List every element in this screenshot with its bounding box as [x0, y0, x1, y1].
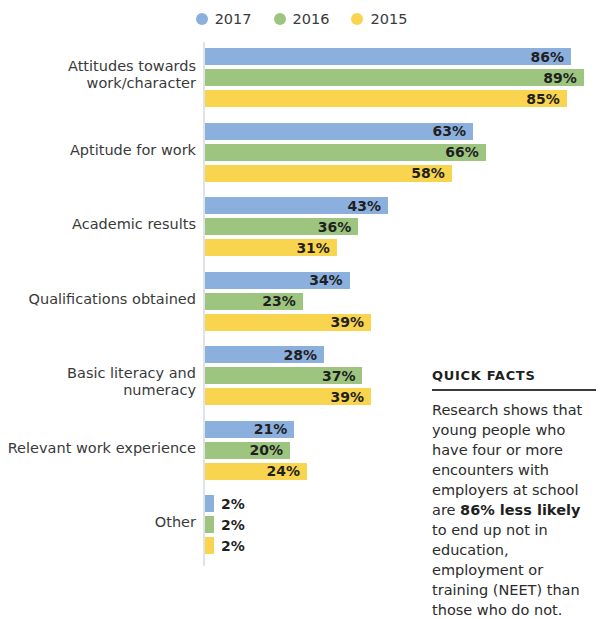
bar-value-label: 24%: [267, 464, 301, 478]
bar-row: 86%: [205, 48, 584, 65]
bar-row: 36%: [205, 218, 388, 235]
bar-value-label: 21%: [254, 422, 288, 436]
legend-dot-icon: [274, 13, 286, 25]
bar-row: 39%: [205, 388, 371, 405]
quick-facts-text-after: to end up not in education, employment o…: [432, 522, 580, 618]
legend-item-2016[interactable]: 2016: [274, 12, 330, 27]
legend-dot-icon: [196, 13, 208, 25]
bar-2017[interactable]: 34%: [205, 272, 350, 289]
category-label: Academic results: [0, 216, 196, 233]
bar-value-label: 36%: [318, 220, 352, 234]
bar-value-label: 37%: [322, 369, 356, 383]
quick-facts-divider: [432, 389, 596, 391]
bar-value-label: 31%: [296, 241, 330, 255]
category-label: Relevant work experience: [0, 440, 196, 457]
bar-2016[interactable]: 36%: [205, 218, 358, 235]
bar-row: 39%: [205, 314, 371, 331]
bar-2017[interactable]: 28%: [205, 346, 324, 363]
bar-2017[interactable]: 86%: [205, 48, 571, 65]
bar-stack: 2%2%2%: [205, 495, 214, 558]
bar-row: 85%: [205, 90, 584, 107]
bar-row: 63%: [205, 123, 486, 140]
bar-row: 34%: [205, 272, 371, 289]
bar-value-label: 43%: [347, 199, 381, 213]
bar-2015[interactable]: 39%: [205, 314, 371, 331]
bar-2017[interactable]: 2%: [205, 495, 214, 512]
bar-row: 28%: [205, 346, 371, 363]
bar-row: 66%: [205, 144, 486, 161]
bar-row: 20%: [205, 442, 307, 459]
bar-row: 2%: [205, 495, 214, 512]
bar-value-label: 2%: [221, 518, 245, 532]
bar-stack: 86%89%85%: [205, 48, 584, 111]
chart-legend: 201720162015: [0, 12, 603, 27]
bar-value-label: 39%: [330, 315, 364, 329]
bar-stack: 34%23%39%: [205, 272, 371, 335]
bar-2016[interactable]: 23%: [205, 293, 303, 310]
legend-dot-icon: [351, 13, 363, 25]
bar-2017[interactable]: 43%: [205, 197, 388, 214]
category-label: Aptitude for work: [0, 142, 196, 159]
bar-value-label: 2%: [221, 539, 245, 553]
bar-2017[interactable]: 21%: [205, 421, 294, 438]
quick-facts-panel: QUICK FACTS Research shows that young pe…: [432, 368, 596, 619]
bar-2017[interactable]: 63%: [205, 123, 473, 140]
bar-value-label: 63%: [433, 124, 467, 138]
quick-facts-highlight: 86% less likely: [460, 502, 580, 518]
bar-row: 2%: [205, 516, 214, 533]
bar-value-label: 23%: [262, 294, 296, 308]
bar-value-label: 28%: [284, 348, 318, 362]
bar-row: 24%: [205, 463, 307, 480]
quick-facts-text-before: Research shows that young people who hav…: [432, 402, 582, 518]
bar-value-label: 20%: [250, 443, 284, 457]
bar-row: 89%: [205, 69, 584, 86]
category-label: Basic literacy and numeracy: [0, 365, 196, 399]
bar-value-label: 2%: [221, 497, 245, 511]
legend-label: 2015: [370, 12, 407, 27]
bar-row: 23%: [205, 293, 371, 310]
legend-item-2015[interactable]: 2015: [351, 12, 407, 27]
legend-item-2017[interactable]: 2017: [196, 12, 252, 27]
bar-row: 43%: [205, 197, 388, 214]
bar-2015[interactable]: 85%: [205, 90, 567, 107]
bar-stack: 28%37%39%: [205, 346, 371, 409]
category-label: Qualifications obtained: [0, 291, 196, 308]
bar-2016[interactable]: 20%: [205, 442, 290, 459]
category-label: Attitudes towards work/character: [0, 58, 196, 92]
bar-stack: 63%66%58%: [205, 123, 486, 186]
bar-value-label: 66%: [445, 145, 479, 159]
bar-value-label: 39%: [330, 390, 364, 404]
bar-2015[interactable]: 39%: [205, 388, 371, 405]
bar-value-label: 89%: [543, 71, 577, 85]
bar-value-label: 86%: [530, 50, 564, 64]
quick-facts-text: Research shows that young people who hav…: [432, 400, 596, 619]
bar-row: 21%: [205, 421, 307, 438]
category-label: Other: [0, 514, 196, 531]
quick-facts-title: QUICK FACTS: [432, 368, 596, 389]
bar-row: 2%: [205, 537, 214, 554]
bar-value-label: 85%: [526, 92, 560, 106]
bar-2016[interactable]: 66%: [205, 144, 486, 161]
bar-row: 37%: [205, 367, 371, 384]
bar-stack: 43%36%31%: [205, 197, 388, 260]
bar-2015[interactable]: 24%: [205, 463, 307, 480]
bar-2015[interactable]: 31%: [205, 239, 337, 256]
bar-value-label: 58%: [411, 166, 445, 180]
legend-label: 2017: [215, 12, 252, 27]
bar-2016[interactable]: 89%: [205, 69, 584, 86]
bar-stack: 21%20%24%: [205, 421, 307, 484]
bar-row: 31%: [205, 239, 388, 256]
legend-label: 2016: [293, 12, 330, 27]
bar-row: 58%: [205, 165, 486, 182]
bar-2016[interactable]: 2%: [205, 516, 214, 533]
bar-value-label: 34%: [309, 273, 343, 287]
bar-2015[interactable]: 2%: [205, 537, 214, 554]
bar-2015[interactable]: 58%: [205, 165, 452, 182]
bar-2016[interactable]: 37%: [205, 367, 362, 384]
